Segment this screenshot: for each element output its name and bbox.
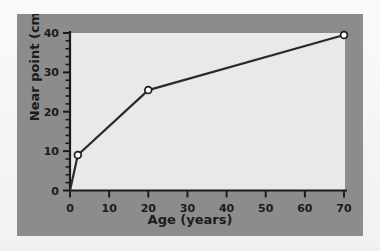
y-tick-label: 0: [17, 185, 59, 196]
figure-root: 010203040 010203040506070 Age (years) Ne…: [0, 0, 380, 251]
y-tick-label: 10: [17, 146, 59, 157]
chart-panel: 010203040 010203040506070 Age (years) Ne…: [17, 14, 363, 236]
data-series-markers: [74, 32, 347, 159]
data-point-marker: [341, 32, 348, 39]
x-axis-title: Age (years): [17, 212, 363, 227]
y-axis-title: Near point (cm): [27, 14, 42, 129]
data-point-marker: [74, 152, 81, 159]
data-point-marker: [145, 87, 152, 94]
data-series-line: [70, 35, 344, 191]
